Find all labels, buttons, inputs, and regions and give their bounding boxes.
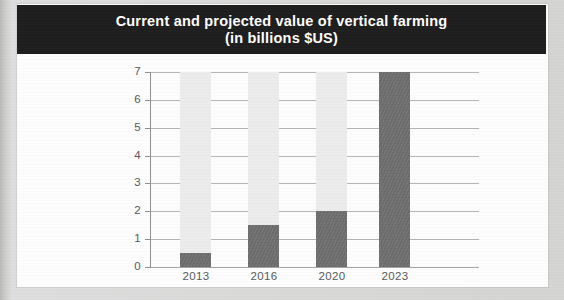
bar-fill-2020 [316, 211, 347, 267]
y-tick-mark-6 [145, 100, 151, 101]
scanned-page: Current and projected value of vertical … [0, 0, 564, 300]
y-tick-mark-4 [145, 156, 151, 157]
y-tick-label-3: 3 [119, 176, 141, 188]
chart-card: Current and projected value of vertical … [17, 4, 548, 287]
y-tick-mark-7 [145, 72, 151, 73]
chart-title-line-1: Current and projected value of vertical … [116, 13, 448, 30]
x-tick-label-2016: 2016 [241, 270, 287, 282]
bar-fill-2013 [180, 253, 211, 267]
chart-title-line-2: (in billions $US) [225, 30, 338, 47]
x-tick-label-2023: 2023 [372, 270, 418, 282]
y-tick-label-7: 7 [119, 65, 141, 77]
gridline-0-baseline [150, 267, 479, 268]
y-tick-mark-5 [145, 128, 151, 129]
y-tick-label-0: 0 [119, 260, 141, 272]
x-tick-label-2020: 2020 [309, 270, 355, 282]
x-tick-label-2013: 2013 [173, 270, 219, 282]
y-tick-mark-3 [145, 183, 151, 184]
y-tick-label-1: 1 [119, 232, 141, 244]
y-tick-label-4: 4 [119, 149, 141, 161]
y-tick-label-2: 2 [119, 204, 141, 216]
y-tick-mark-2 [145, 211, 151, 212]
bar-fill-2023 [379, 72, 410, 267]
y-tick-mark-0 [145, 267, 151, 268]
y-tick-label-6: 6 [119, 93, 141, 105]
bar-track-2013 [180, 72, 211, 267]
bar-fill-2016 [248, 225, 279, 267]
y-tick-label-5: 5 [119, 121, 141, 133]
chart-axes: 7 6 5 4 3 2 1 0 [133, 64, 493, 284]
bar-chart-plot-area: 7 6 5 4 3 2 1 0 [133, 64, 493, 284]
y-tick-mark-1 [145, 239, 151, 240]
chart-title-banner: Current and projected value of vertical … [17, 5, 546, 54]
